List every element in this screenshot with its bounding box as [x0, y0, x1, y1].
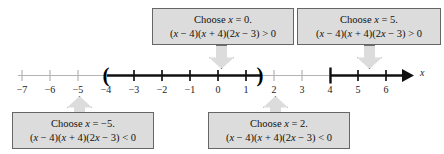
tick-label-neg7: −7 [17, 84, 28, 95]
tick-label-neg1: −1 [185, 84, 196, 95]
callout-bottom-middle: Choose x = 2. (x − 4)(x + 4)(2x − 3) < 0 [208, 112, 350, 149]
figure-root: Choose x = 0. (x − 4)(x + 4)(2x − 3) > 0… [0, 0, 444, 154]
interval-close-paren-1p5: ) [257, 63, 264, 88]
tick-label-neg3: −3 [129, 84, 140, 95]
tick-label-6: 6 [384, 84, 389, 95]
callout-bottom-left: Choose x = −5. (x − 4)(x + 4)(2x − 3) < … [12, 112, 154, 149]
tick-label-4: 4 [328, 84, 333, 95]
tick-label-neg2: −2 [157, 84, 168, 95]
tick-label-0: 0 [216, 84, 221, 95]
tick-label-neg5: −5 [73, 84, 84, 95]
tick-label-neg6: −6 [45, 84, 56, 95]
callout-bottom-left-line2: (x − 4)(x + 4)(2x − 3) < 0 [19, 131, 147, 145]
tick-label-neg4: −4 [101, 84, 112, 95]
callout-bottom-middle-line2: (x − 4)(x + 4)(2x − 3) < 0 [215, 131, 343, 145]
tick-label-5: 5 [356, 84, 361, 95]
tick-label-2: 2 [272, 84, 277, 95]
axis-label-x: x [420, 67, 424, 78]
tick-label-3: 3 [300, 84, 305, 95]
callout-bottom-middle-line1: Choose x = 2. [215, 117, 343, 131]
tick-label-1: 1 [244, 84, 249, 95]
callout-bottom-left-line1: Choose x = −5. [19, 117, 147, 131]
